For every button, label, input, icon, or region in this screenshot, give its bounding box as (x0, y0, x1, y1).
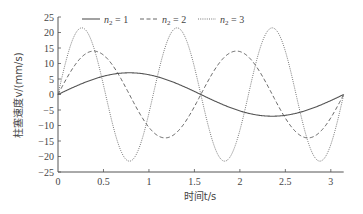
y-tick-label: −25 (38, 167, 54, 178)
x-axis-label: 时间t/s (184, 190, 217, 202)
x-tick-label: 2.5 (279, 176, 292, 187)
y-tick-label: 20 (44, 27, 54, 38)
y-tick-label: −20 (38, 151, 54, 162)
y-tick-label: −10 (38, 120, 54, 131)
x-tick-label: 1.5 (188, 176, 201, 187)
y-tick-label: 0 (49, 89, 54, 100)
x-tick-label: 0.5 (97, 176, 110, 187)
legend: n2 = 1n2 = 2n2 = 3 (82, 14, 244, 27)
y-tick-label: 10 (44, 58, 54, 69)
series-line-1 (58, 73, 344, 116)
y-tick-label: −15 (38, 136, 54, 147)
y-tick-label: 15 (44, 43, 54, 54)
legend-label-1: n2 = 1 (104, 14, 128, 27)
legend-label-3: n2 = 3 (220, 14, 244, 27)
y-tick-label: −5 (43, 105, 54, 116)
y-tick-label: 25 (44, 12, 54, 23)
x-tick-label: 0 (56, 176, 61, 187)
chart: −25−20−15−10−5051015202500.511.522.53 n2… (0, 0, 363, 214)
x-tick-label: 2 (237, 176, 242, 187)
y-axis-label: 柱塞速度v/(mm/s) (12, 52, 24, 137)
axes: −25−20−15−10−5051015202500.511.522.53 (38, 12, 343, 188)
legend-label-2: n2 = 2 (162, 14, 186, 27)
y-tick-label: 5 (49, 74, 54, 85)
x-tick-label: 3 (328, 176, 333, 187)
x-tick-label: 1 (146, 176, 151, 187)
plot-curves (58, 28, 344, 161)
